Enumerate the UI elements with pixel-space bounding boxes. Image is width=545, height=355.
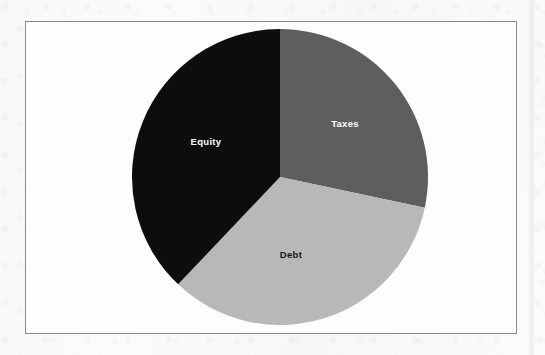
pie-slice-label-debt: Debt [280, 249, 303, 260]
pie-slice-group [132, 29, 428, 325]
scanned-page: TaxesDebtEquity [0, 0, 545, 355]
pie-slice-label-equity: Equity [191, 136, 222, 147]
pie-slice-label-taxes: Taxes [331, 118, 359, 129]
pie-chart: TaxesDebtEquity [0, 0, 545, 355]
